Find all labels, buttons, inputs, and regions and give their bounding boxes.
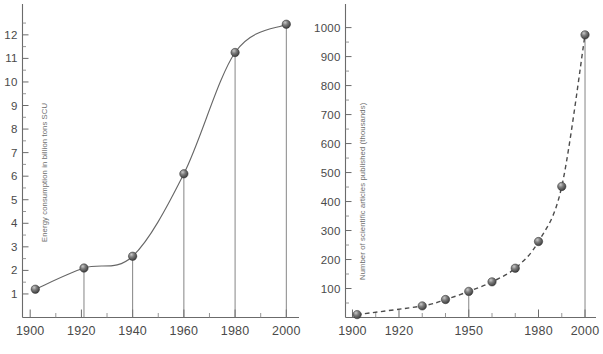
- energy-axes: [23, 4, 300, 318]
- y-tick-label: 500: [321, 167, 341, 179]
- articles-y-tick-labels: 1002003004005006007008009001000: [314, 22, 340, 295]
- y-tick-label: 9: [11, 100, 18, 112]
- chart-energy-consumption: 123456789101112 190019201940196019802000…: [0, 0, 301, 354]
- energy-x-tick-labels: 190019201940196019802000: [16, 324, 301, 338]
- data-point-marker: [80, 264, 88, 272]
- data-point-marker: [465, 287, 473, 295]
- y-tick-label: 7: [11, 147, 18, 159]
- y-tick-label: 6: [11, 170, 18, 182]
- energy-trend-line: [35, 24, 286, 289]
- y-tick-label: 300: [321, 225, 341, 237]
- data-point-marker: [282, 20, 290, 28]
- y-tick-label: 600: [321, 138, 341, 150]
- y-tick-label: 12: [4, 29, 17, 41]
- data-point-marker: [441, 295, 449, 303]
- x-tick-label: 1920: [385, 324, 414, 338]
- y-tick-label: 10: [4, 76, 17, 88]
- energy-x-ticks: [30, 310, 286, 318]
- y-tick-label: 400: [321, 196, 341, 208]
- y-tick-label: 1000: [314, 22, 340, 34]
- articles-trend-line: [357, 35, 585, 315]
- y-tick-label: 100: [321, 283, 341, 295]
- articles-data-points: [353, 31, 589, 319]
- chart-scientific-articles: 1002003004005006007008009001000 19001920…: [301, 0, 603, 354]
- y-tick-label: 800: [321, 80, 341, 92]
- y-tick-label: 1: [11, 288, 18, 300]
- articles-y-ticks: [346, 28, 352, 303]
- data-point-marker: [231, 48, 239, 56]
- x-tick-label: 1940: [118, 324, 147, 338]
- energy-y-axis-title: Energy consumption in billion tons SCU: [40, 103, 49, 242]
- x-tick-label: 1960: [170, 324, 199, 338]
- x-tick-label: 1950: [454, 324, 483, 338]
- energy-data-points: [31, 20, 290, 293]
- figure-footer: [0, 345, 603, 354]
- data-point-marker: [353, 310, 361, 318]
- y-tick-label: 900: [321, 51, 341, 63]
- x-tick-label: 1920: [67, 324, 96, 338]
- energy-y-ticks: [23, 23, 29, 294]
- y-tick-label: 8: [11, 123, 18, 135]
- data-point-marker: [581, 31, 589, 39]
- y-tick-label: 5: [11, 194, 18, 206]
- x-tick-label: 1900: [338, 324, 367, 338]
- data-point-marker: [128, 252, 136, 260]
- articles-drop-lines: [469, 35, 585, 318]
- two-panel-figure: 123456789101112 190019201940196019802000…: [0, 0, 603, 354]
- articles-axes: [346, 4, 597, 318]
- y-tick-label: 2: [11, 264, 18, 276]
- data-point-marker: [180, 170, 188, 178]
- data-point-marker: [31, 285, 39, 293]
- y-tick-label: 11: [5, 52, 17, 64]
- articles-y-axis-title: Number of scientific articles published …: [358, 102, 367, 280]
- data-point-marker: [511, 264, 519, 272]
- data-point-marker: [534, 237, 542, 245]
- articles-x-tick-labels: 19001920195019802000: [338, 324, 599, 338]
- data-point-marker: [418, 302, 426, 310]
- energy-chart-svg: 123456789101112 190019201940196019802000…: [0, 0, 301, 354]
- x-tick-label: 1980: [524, 324, 553, 338]
- x-tick-label: 1980: [221, 324, 250, 338]
- y-tick-label: 3: [11, 241, 18, 253]
- data-point-marker: [488, 278, 496, 286]
- y-tick-label: 4: [11, 217, 18, 229]
- x-tick-label: 2000: [571, 324, 600, 338]
- energy-y-tick-labels: 123456789101112: [4, 29, 18, 300]
- x-tick-label: 2000: [272, 324, 301, 338]
- x-tick-label: 1900: [16, 324, 45, 338]
- y-tick-label: 200: [321, 254, 341, 266]
- data-point-marker: [558, 182, 566, 190]
- y-tick-label: 700: [321, 109, 341, 121]
- articles-chart-svg: 1002003004005006007008009001000 19001920…: [301, 0, 603, 354]
